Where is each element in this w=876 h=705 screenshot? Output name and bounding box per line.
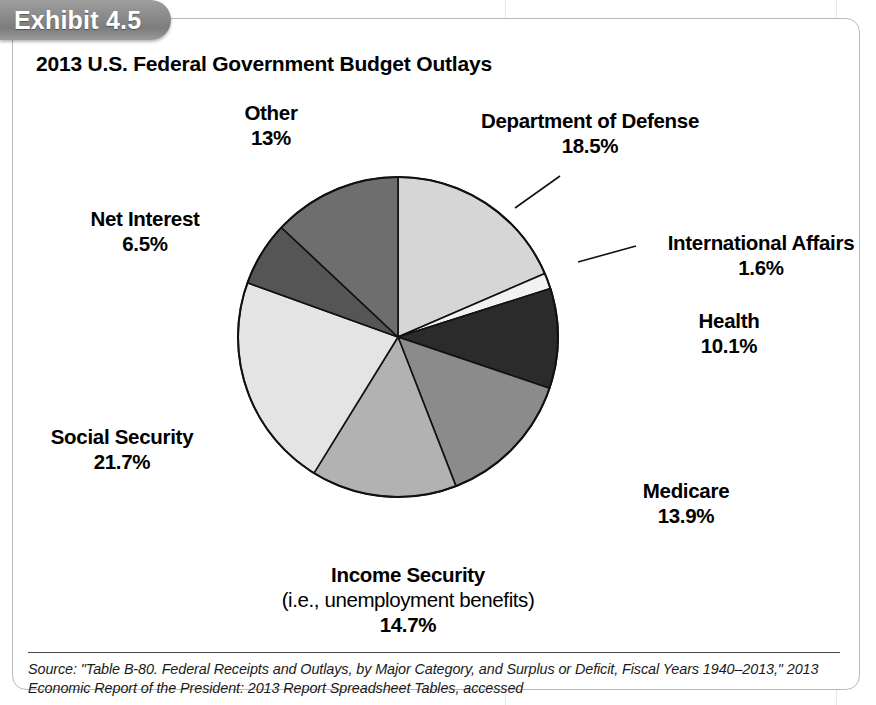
pie-label-net-interest-name: Net Interest [90, 207, 199, 230]
pie-label-social-security: Social Security 21.7% [14, 424, 230, 474]
pie-label-health: Health 10.1% [654, 308, 804, 358]
pie-label-net-interest: Net Interest 6.5% [50, 206, 240, 256]
pie-label-other-name: Other [244, 101, 297, 124]
pie-label-net-interest-value: 6.5% [50, 231, 240, 256]
pie-label-social-security-name: Social Security [51, 425, 193, 448]
pie-label-health-name: Health [699, 309, 760, 332]
pie-label-income-security: Income Security (i.e., unemployment bene… [238, 562, 578, 637]
pie-label-social-security-value: 21.7% [14, 449, 230, 474]
pie-label-international-affairs-name: International Affairs [668, 231, 855, 254]
chart-title: 2013 U.S. Federal Government Budget Outl… [36, 52, 492, 76]
pie-label-international-affairs-value: 1.6% [648, 255, 874, 280]
pie-label-medicare-name: Medicare [643, 479, 729, 502]
pie-label-income-security-subtitle: (i.e., unemployment benefits) [238, 587, 578, 612]
pie-label-health-value: 10.1% [654, 333, 804, 358]
exhibit-tab-label: Exhibit 4.5 [14, 6, 141, 35]
pie-label-department-of-defense-name: Department of Defense [481, 109, 699, 132]
pie-label-international-affairs: International Affairs 1.6% [648, 230, 874, 280]
pie-label-income-security-name: Income Security [331, 563, 485, 586]
pie-label-medicare: Medicare 13.9% [596, 478, 776, 528]
pie-label-department-of-defense: Department of Defense 18.5% [440, 108, 740, 158]
pie-label-other: Other 13% [196, 100, 346, 150]
pie-label-income-security-value: 14.7% [238, 612, 578, 637]
exhibit-tab: Exhibit 4.5 [0, 0, 171, 40]
pie-label-department-of-defense-value: 18.5% [440, 133, 740, 158]
source-note: Source: "Table B-80. Federal Receipts an… [28, 652, 840, 698]
pie-label-medicare-value: 13.9% [596, 503, 776, 528]
pie-label-other-value: 13% [196, 125, 346, 150]
